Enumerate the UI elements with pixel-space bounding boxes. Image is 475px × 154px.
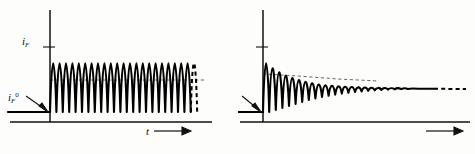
x-axis-label: t [146,126,149,137]
damped-oscillation-panel: iF iF0 t [238,0,475,154]
y-axis-label: iF [22,36,29,48]
sustained-oscillation-panel: iF iF0 t [0,0,237,154]
damped-oscillation-plot [238,0,475,154]
sustained-oscillation-plot [0,0,237,154]
initial-current-pointer-head [39,103,48,112]
x-axis-arrow-head [182,127,191,135]
oscillation-continuation [191,63,197,112]
figure-root: iF iF0 t iF iF0 [0,0,475,154]
initial-current-label: iF0 [8,92,19,104]
oscillating-current [50,63,191,112]
x-axis-arrow-head [454,127,463,135]
initial-current-pointer-head [252,103,261,112]
damped-current [263,63,434,112]
